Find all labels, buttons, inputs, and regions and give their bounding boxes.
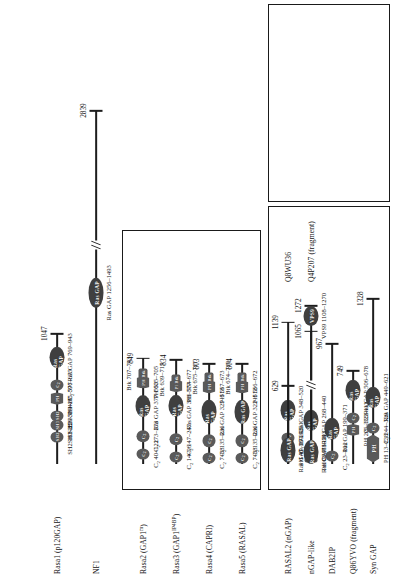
protein-name-q8wu36: Q8WU36: [284, 252, 293, 282]
domain-btk-rasa5-4: Btk: [238, 372, 247, 383]
backbone-break-nf1: [90, 240, 102, 249]
domain-ph-q86yv0-0: PH: [347, 424, 360, 436]
domain-sh3-rasa1-1: SH3: [51, 420, 64, 431]
figure-rotor: Rasa1 (p120GAP)1047SH2SH2 181–256SH3SH3 …: [0, 0, 393, 582]
domain-ras-gap-rasa1-5: Ras GAP: [50, 347, 65, 369]
length-tick-rasa3: [170, 359, 183, 361]
domain-ras-gap-rasa3-2: Ras GAP: [169, 395, 184, 417]
protein-row-q4p207: Q4P207 (fragment)1272Ras GAPRas GAP 1–19…: [0, 0, 1, 582]
length-label-ngap-like: 1065: [294, 324, 303, 339]
domain-sh2-rasa1-2: SH2: [51, 410, 64, 421]
length-label-dab2ip: 967: [315, 338, 324, 349]
length-tick-nf1: [90, 110, 103, 112]
length-tick-rasa2: [137, 357, 150, 359]
protein-domain-figure: Rasa1 (p120GAP)1047SH2SH2 181–256SH3SH3 …: [0, 0, 393, 582]
domain-ph-syn-gap-0: PH: [367, 434, 380, 462]
protein-name-nf1: NF1: [92, 560, 101, 574]
length-label-rasa1: 1047: [40, 326, 49, 341]
length-label-q86yv0: 749: [336, 365, 345, 376]
domain-c2-rasa5-0: C2: [236, 453, 249, 464]
domain-c2-syn-gap-1: C2: [367, 423, 380, 434]
domain-sh2-rasa1-0: SH2: [51, 431, 64, 442]
domain-ras-gap-rasa5-2: Ras GAP: [235, 400, 250, 424]
domain-ras-gap-syn-gap-2: Ras GAP: [366, 387, 381, 408]
length-label-q8wu36: 629: [271, 380, 280, 391]
protein-name-syn-gap: Syn GAP: [369, 544, 378, 574]
domain-c2-rasa4-1: C2: [203, 435, 216, 448]
domain-vps9-q4p207-1: VPS9: [304, 306, 319, 326]
length-tick-q8wu36: [282, 385, 295, 387]
domain-ras-gap-q8wu36-0: Ras GAP: [281, 437, 296, 462]
domain-ras-gap-nf1-0: Ras GAP: [89, 278, 104, 308]
protein-name-dab2ip: DAB2IP: [328, 547, 337, 574]
domain-ras-gap-q86yv0-2: Ras GAP: [346, 380, 361, 401]
domain-coord-rasa5-4: Btk 674–710: [224, 361, 231, 395]
domain-c2-q86yv0-1: C2: [347, 412, 360, 423]
length-tick-syn-gap: [367, 298, 380, 300]
protein-name-q86yv0: Q86YVO (fragment): [349, 508, 358, 574]
protein-name-rasa5: Rasa5 (RASAL): [238, 522, 247, 574]
domain-c2-rasa3-0: C2: [170, 452, 183, 463]
length-tick-rasa1: [51, 333, 64, 335]
protein-name-ngap-like: nGAP-like: [307, 540, 316, 574]
domain-coord-q4p207-0: Ras GAP 1–193: [320, 431, 327, 473]
protein-backbone-dab2ip: [331, 344, 333, 464]
domain-coord-nf1-0: Ras GAP 1256–1493: [105, 265, 112, 320]
length-label-syn-gap: 1328: [356, 291, 365, 306]
protein-name-rasa3: Rasa3 (GAP1IP4BP): [171, 514, 182, 574]
domain-coord-rasa5-3: PH 566–672: [251, 371, 258, 404]
domain-coord-rasa2-4: Btk 707–743: [125, 357, 132, 391]
domain-btk-rasa2-4: Btk: [139, 368, 148, 379]
domain-ph-rasa1-3: PH: [51, 392, 64, 405]
length-label-rasal2: 1139: [271, 315, 280, 329]
protein-name-rasa2: Rasa2 (GAP1m): [138, 524, 149, 574]
domain-coord-rasa4-4: Btk 675–711: [191, 361, 198, 395]
protein-name-rasa1: Rasa1 (p120GAP): [53, 517, 62, 574]
protein-name-rasal2: RASAL2 (nGAP): [284, 518, 293, 574]
domain-c2-rasa3-1: C2: [170, 433, 183, 445]
domain-ras-gap-rasa2-2: Ras GAP: [136, 395, 151, 417]
domain-ras-gap-rasa4-2: Ras GAP: [202, 400, 217, 423]
protein-name-q4p207: Q4P207 (fragment): [307, 221, 316, 282]
length-tick-rasa5: [236, 363, 249, 365]
length-tick-q86yv0: [347, 370, 360, 372]
domain-btk-rasa3-4: Btk: [172, 374, 181, 385]
domain-c2-rasa2-0: C2: [137, 448, 150, 459]
group-box-fungal: [268, 4, 390, 202]
backbone-break-q4p207: [305, 380, 317, 389]
domain-coord-syn-gap-2: Ras GAP 449–621: [382, 373, 389, 422]
domain-c2-rasa1-4: C2: [51, 379, 64, 390]
domain-btk-rasa4-4: Btk: [205, 372, 214, 383]
length-tick-dab2ip: [326, 343, 339, 345]
domain-ras-gap-q4p207-0: Ras GAP: [304, 440, 319, 464]
domain-coord-rasa3-4: Btk 639–715: [158, 363, 165, 397]
length-tick-rasa4: [203, 363, 216, 365]
length-label-q4p207: 1272: [294, 298, 303, 313]
length-tick-rasal2: [282, 321, 295, 323]
domain-coord-q4p207-1: VPS9 1108–1270: [320, 293, 327, 339]
domain-c2-dab2ip-0: C2: [326, 451, 339, 462]
domain-c2-rasa4-0: C2: [203, 453, 216, 464]
domain-c2-rasa5-1: C2: [236, 435, 249, 448]
protein-name-rasa4: Rasa4 (CAPRI): [205, 525, 214, 574]
length-label-nf1: 2839: [79, 103, 88, 118]
domain-c2-rasa2-1: C2: [137, 430, 150, 442]
domain-coord-rasa1-5: Ras GAP 769–943: [66, 333, 73, 382]
